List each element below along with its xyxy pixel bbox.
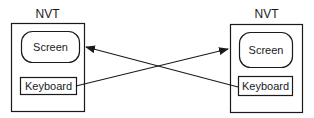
arrow-left-keyboard-to-right-screen (76, 49, 228, 86)
right-keyboard-label: Keyboard (238, 81, 293, 92)
arrow-right-keyboard-to-left-screen (86, 47, 238, 87)
left-terminal-title: NVT (11, 8, 84, 20)
left-screen-label: Screen (21, 42, 80, 53)
left-keyboard-label: Keyboard (20, 81, 77, 92)
right-terminal-title: NVT (230, 8, 303, 20)
right-screen-label: Screen (239, 45, 293, 56)
